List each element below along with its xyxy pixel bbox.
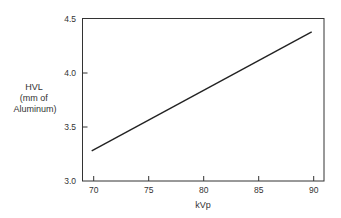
chart: 7075808590 3.03.54.04.5 kVp HVL (mm of A… xyxy=(0,0,341,218)
data-line xyxy=(92,32,312,151)
y-axis-ticks: 3.03.54.04.5 xyxy=(64,14,87,186)
plot-frame xyxy=(83,19,325,182)
y-tick-label: 3.5 xyxy=(64,122,76,132)
x-tick-label: 70 xyxy=(89,185,99,195)
y-tick-label: 3.0 xyxy=(64,176,76,186)
x-axis-ticks: 7075808590 xyxy=(89,176,319,195)
x-tick-label: 80 xyxy=(199,185,209,195)
y-tick-label: 4.5 xyxy=(64,14,76,24)
x-tick-label: 90 xyxy=(309,185,319,195)
x-tick-label: 75 xyxy=(144,185,154,195)
x-axis-label: kVp xyxy=(195,200,211,210)
x-tick-label: 85 xyxy=(254,185,264,195)
y-axis-label: HVL (mm of Aluminum) xyxy=(13,82,56,114)
y-tick-label: 4.0 xyxy=(64,68,76,78)
